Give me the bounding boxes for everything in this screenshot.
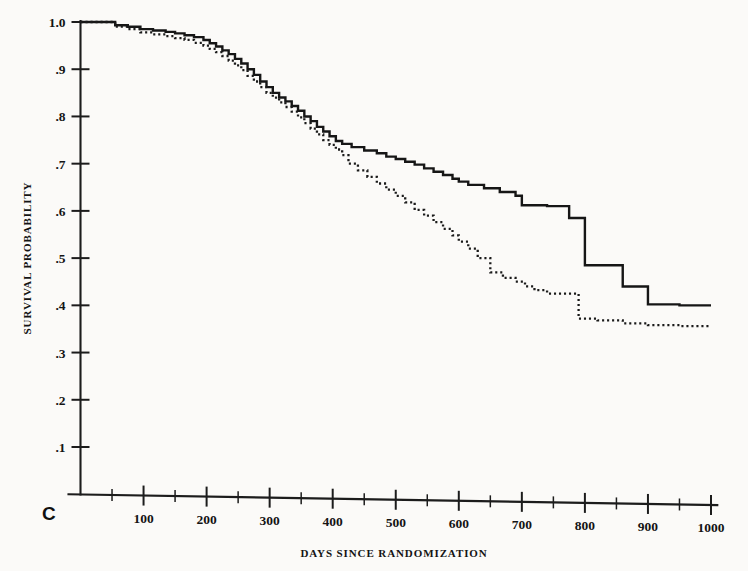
figure-panel: .1.2.3.4.5.6.7.8.91.01002003004005006007…: [0, 0, 748, 571]
y-ticklabel-.5: .5: [55, 251, 65, 266]
x-ticklabel-400: 400: [323, 514, 344, 529]
x-axis-title: DAYS SINCE RANDOMIZATION: [300, 547, 487, 559]
y-ticklabel-.2: .2: [55, 393, 65, 408]
x-ticklabel-500: 500: [386, 515, 407, 530]
survival-curves: [81, 22, 712, 327]
curve-treatment-solid: [81, 22, 712, 305]
x-ticklabel-600: 600: [449, 516, 470, 531]
y-ticklabel-.8: .8: [55, 109, 65, 124]
y-ticklabel-.7: .7: [55, 157, 65, 172]
x-ticklabel-900: 900: [638, 519, 659, 534]
axis-ticks: [72, 22, 712, 515]
y-ticklabel-.6: .6: [55, 204, 65, 219]
panel-label-c: C: [42, 503, 56, 524]
x-ticklabel-100: 100: [133, 511, 154, 526]
y-ticklabel-.4: .4: [55, 298, 65, 313]
y-ticklabel-1.0: 1.0: [49, 15, 66, 30]
x-ticklabel-300: 300: [260, 513, 281, 528]
x-ticklabel-1000: 1000: [698, 520, 725, 535]
curve-control-dotted: [81, 22, 712, 327]
axes: [69, 21, 718, 505]
y-axis-title: SURVIVAL PROBABILITY: [21, 182, 33, 335]
x-ticklabel-800: 800: [575, 518, 596, 533]
survival-curve-chart: .1.2.3.4.5.6.7.8.91.01002003004005006007…: [0, 0, 748, 571]
x-ticklabel-200: 200: [196, 512, 217, 527]
y-ticklabel-.3: .3: [55, 346, 65, 361]
y-ticklabel-.9: .9: [55, 62, 65, 77]
x-axis-line: [69, 494, 718, 505]
y-ticklabel-.1: .1: [55, 440, 65, 455]
x-ticklabel-700: 700: [512, 517, 533, 532]
